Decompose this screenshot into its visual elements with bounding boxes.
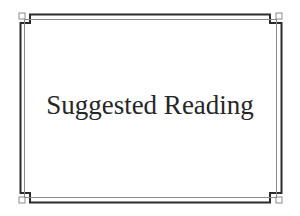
corner-square-top-right bbox=[276, 13, 282, 19]
card-title: Suggested Reading bbox=[0, 88, 300, 122]
corner-square-top-left bbox=[19, 13, 25, 19]
